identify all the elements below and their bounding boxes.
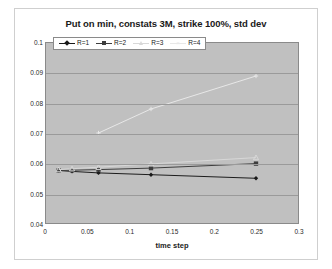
legend-item-R3[interactable]: R=3 <box>133 40 163 47</box>
x-axis-tick-label: 0.3 <box>294 228 303 235</box>
gridline <box>46 134 298 135</box>
legend-label: R=4 <box>188 40 200 47</box>
chart-title: Put on min, constats 3M, strike 100%, st… <box>15 18 317 29</box>
legend-item-R1[interactable]: R=1 <box>59 40 89 47</box>
legend-label: R=3 <box>151 40 163 47</box>
x-axis-tick-label: 0.15 <box>166 228 179 235</box>
x-axis-tick-label: 0.05 <box>81 228 94 235</box>
legend-marker-icon <box>96 40 112 47</box>
y-axis-tick-label: 0.08 <box>17 99 43 106</box>
legend-item-R4[interactable]: ×R=4 <box>170 40 200 47</box>
data-point-marker <box>149 166 153 170</box>
gridline <box>46 164 298 165</box>
x-axis-tick-label: 0.1 <box>125 228 134 235</box>
data-point-marker <box>254 176 258 180</box>
data-point-marker <box>149 173 153 177</box>
x-axis-tick-label: 0.2 <box>210 228 219 235</box>
data-point-marker <box>254 74 258 78</box>
data-point-marker <box>149 107 153 111</box>
y-axis: 0.040.050.060.070.080.090.1 <box>15 42 43 224</box>
y-axis-tick-label: 0.05 <box>17 190 43 197</box>
legend-marker-icon <box>133 40 149 47</box>
y-axis-tick-label: 0.04 <box>17 221 43 228</box>
plot-area <box>45 42 299 224</box>
series-plot <box>46 43 298 223</box>
x-axis-title: time step <box>45 241 299 250</box>
legend-marker-icon: × <box>170 40 186 47</box>
series-line-R1 <box>59 171 256 179</box>
legend-marker-icon <box>59 40 75 47</box>
legend-label: R=2 <box>114 40 126 47</box>
legend-label: R=1 <box>77 40 89 47</box>
chart-legend: R=1R=2R=3×R=4 <box>53 37 206 50</box>
data-point-marker <box>253 155 258 160</box>
y-axis-tick-label: 0.1 <box>17 39 43 46</box>
y-axis-tick-label: 0.07 <box>17 130 43 137</box>
gridline <box>46 195 298 196</box>
chart-frame: Put on min, constats 3M, strike 100%, st… <box>14 8 318 260</box>
x-axis-tick-label: 0 <box>43 228 47 235</box>
x-axis: 00.050.10.150.20.250.3 <box>45 228 299 240</box>
legend-item-R2[interactable]: R=2 <box>96 40 126 47</box>
y-axis-tick-label: 0.09 <box>17 69 43 76</box>
gridline <box>46 73 298 74</box>
x-axis-tick-label: 0.25 <box>250 228 263 235</box>
gridline <box>46 104 298 105</box>
y-axis-tick-label: 0.06 <box>17 160 43 167</box>
